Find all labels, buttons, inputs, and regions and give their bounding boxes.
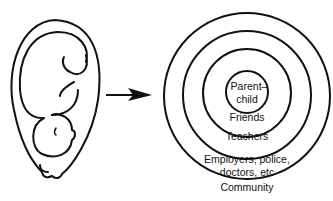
label-teachers: Teachers bbox=[226, 130, 269, 142]
label-employers: Employers, police, bbox=[204, 153, 290, 165]
label-child: child bbox=[236, 93, 258, 105]
label-community: Community bbox=[220, 181, 274, 193]
diagram-canvas: Parent– child Friends Teachers Employers… bbox=[0, 0, 333, 201]
parent-child-circle bbox=[226, 71, 268, 113]
label-doctors: doctors, etc bbox=[220, 166, 274, 178]
right-arrow-icon bbox=[106, 88, 152, 101]
label-friends: Friends bbox=[229, 111, 264, 123]
fetus-in-womb-icon bbox=[11, 20, 99, 178]
label-parent: Parent– bbox=[231, 80, 268, 92]
